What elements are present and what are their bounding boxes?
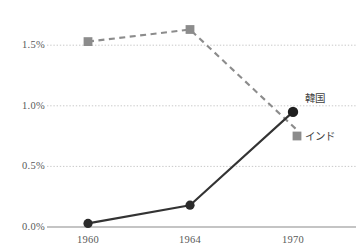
series-label-korea: 韓国 <box>305 92 325 104</box>
series-label-india: インド <box>305 130 335 142</box>
data-point-india-1970 <box>293 132 302 141</box>
y-axis-tick-1-0: 1.0% <box>1 100 45 112</box>
data-point-india-1964 <box>186 25 195 34</box>
y-axis-tick-1-5: 1.5% <box>1 39 45 51</box>
data-point-korea-1964 <box>185 201 194 210</box>
line-chart: 1.5% 1.0% 0.5% 0.0% 1960 1964 1970 韓国 イン… <box>0 0 356 248</box>
x-axis-tick-1960: 1960 <box>77 234 99 246</box>
series-line-india <box>88 30 297 131</box>
data-point-korea-1970 <box>288 107 298 117</box>
data-point-india-1960 <box>84 37 93 46</box>
x-axis-tick-1970: 1970 <box>282 234 304 246</box>
y-axis-tick-0-5: 0.5% <box>1 160 45 172</box>
y-axis-tick-0-0: 0.0% <box>1 221 45 233</box>
x-axis-tick-1964: 1964 <box>179 234 201 246</box>
chart-plot-area <box>0 0 356 248</box>
data-point-korea-1960 <box>83 219 92 228</box>
